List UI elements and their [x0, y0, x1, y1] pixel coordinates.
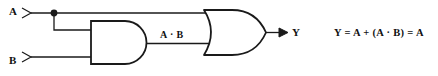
input-label-b: B: [9, 55, 16, 66]
or-gate-body: [204, 10, 266, 55]
and-gate-body: [91, 21, 147, 64]
output-label-y: Y: [292, 27, 300, 38]
input-b-arrow-icon: [22, 52, 31, 62]
input-a-arrow-icon: [22, 8, 31, 18]
boolean-equation: Y = A + (A · B) = A: [334, 28, 424, 39]
and-gate-output-label: A · B: [160, 30, 184, 40]
junction-dot-icon: [51, 10, 58, 17]
circuit-diagram-canvas: A B A · B Y Y = A + (A · B) = A: [0, 0, 438, 76]
input-label-a: A: [9, 6, 17, 17]
output-y-arrow-icon: [279, 28, 288, 37]
wire-a-branch-to-and-gate: [54, 13, 91, 30]
